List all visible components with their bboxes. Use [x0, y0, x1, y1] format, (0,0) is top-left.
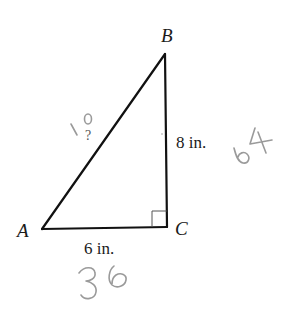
side-label-ab-unknown: ?	[85, 128, 91, 143]
right-triangle-diagram: B A C 8 in. 6 in. ?	[0, 0, 293, 320]
side-ac	[42, 227, 167, 229]
right-angle-marker	[152, 211, 167, 227]
side-ab	[42, 54, 165, 229]
side-bc	[165, 54, 167, 227]
vertex-label-a: A	[15, 220, 29, 241]
side-label-bc: 8 in.	[176, 133, 206, 152]
side-label-ac: 6 in.	[84, 239, 114, 258]
vertex-label-c: C	[175, 218, 188, 239]
handwritten-64	[234, 128, 272, 163]
handwritten-36	[79, 266, 126, 299]
vertex-label-b: B	[161, 25, 173, 46]
